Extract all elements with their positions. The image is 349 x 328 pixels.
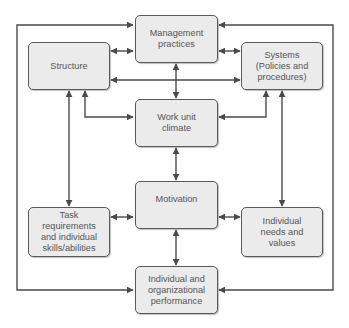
node-management-practices: Management practices <box>135 15 218 63</box>
node-task-requirements: Task requirements and individual skills/… <box>28 207 110 257</box>
node-label: Work unit climate <box>157 112 196 134</box>
node-label: Structure <box>50 61 87 72</box>
node-performance: Individual and organizational performanc… <box>135 266 218 314</box>
arrow-systems-climate <box>219 91 266 117</box>
node-motivation: Motivation <box>135 181 218 229</box>
node-structure: Structure <box>28 42 110 90</box>
node-systems: Systems (Policies and procedures) <box>241 42 323 90</box>
node-label: Motivation <box>156 194 198 205</box>
node-work-unit-climate: Work unit climate <box>135 99 218 147</box>
arrow-structure-climate <box>85 91 133 117</box>
node-label: Task requirements and individual skills/… <box>41 210 97 254</box>
node-label: Systems (Policies and procedures) <box>256 50 309 83</box>
node-label: Individual and organizational performanc… <box>148 274 205 307</box>
node-individual-needs: Individual needs and values <box>241 207 323 257</box>
node-label: Management practices <box>150 28 204 50</box>
node-label: Individual needs and values <box>261 216 304 249</box>
